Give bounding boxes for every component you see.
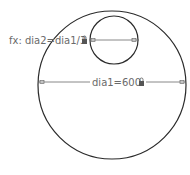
dimension-dia1[interactable]: dia1=600 xyxy=(39,77,185,88)
dimension-dia2-label: fx: dia2=dia1/3 xyxy=(9,35,86,46)
dimension-dia1-label: dia1=600 xyxy=(92,77,141,88)
dimension-dia2[interactable]: fx: dia2=dia1/3 xyxy=(9,35,139,46)
sketch-canvas[interactable]: fx: dia2=dia1/3 dia1=600 xyxy=(0,0,190,175)
lock-icon xyxy=(139,78,144,86)
